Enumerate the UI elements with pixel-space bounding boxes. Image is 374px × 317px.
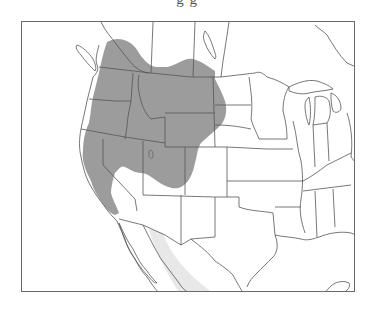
east-coast	[347, 113, 355, 163]
yucatan-hint	[325, 281, 350, 292]
mississippi-river	[293, 121, 305, 233]
in-oh-border	[327, 123, 329, 161]
il-in-border	[313, 125, 315, 167]
michigan-lower	[313, 96, 330, 125]
tn-border	[303, 185, 351, 191]
ok-tx-border	[215, 197, 273, 213]
lake-michigan	[305, 97, 311, 125]
caption-fragment: g g	[0, 0, 374, 8]
range-map	[22, 22, 355, 292]
sd-ne-border	[215, 125, 251, 129]
lake-winnipeg	[204, 31, 216, 59]
lake-huron	[331, 93, 341, 112]
alberta-sask-border	[151, 22, 153, 73]
vancouver-island	[76, 45, 96, 71]
ms-al-border	[315, 191, 317, 237]
al-ga-border	[333, 189, 335, 227]
gulf-coast-florida	[319, 232, 355, 237]
dakota-minnesota-border	[249, 77, 259, 139]
lake-superior	[289, 80, 333, 93]
mn-wi-border	[267, 77, 289, 139]
map-frame	[21, 21, 355, 292]
primary-range	[83, 39, 227, 215]
ohio-river	[303, 153, 351, 181]
nm-tx-border	[191, 197, 215, 239]
hudson-coast	[315, 25, 355, 67]
louisiana-coast	[275, 235, 319, 240]
az-nm-north-border	[143, 195, 215, 197]
manitoba-ontario-border	[221, 22, 229, 77]
texas-east-border	[247, 213, 277, 287]
ne-ks-border	[227, 147, 267, 149]
